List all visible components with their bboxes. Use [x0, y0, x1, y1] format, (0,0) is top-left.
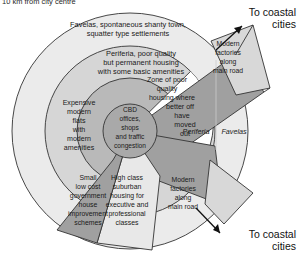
svg-text:main road: main road [168, 203, 198, 210]
svg-text:executive and: executive and [106, 201, 149, 208]
favelas-ring-label: Favelas [221, 127, 247, 136]
svg-text:but permanent housing: but permanent housing [103, 58, 179, 67]
svg-text:housing where: housing where [149, 94, 195, 102]
svg-text:modern: modern [67, 135, 91, 143]
svg-text:squatter type settlements: squatter type settlements [87, 29, 170, 38]
svg-text:offices,: offices, [120, 115, 141, 122]
svg-text:and traffic: and traffic [116, 133, 146, 140]
svg-text:classes: classes [116, 219, 140, 226]
top-note-label: 10 km from city centre [2, 0, 76, 6]
periferia-ring-label: Periferia [183, 127, 210, 136]
coastal-bottom-line2: cities [249, 240, 296, 252]
diagram-root: 10 km from city centre [0, 0, 298, 266]
svg-text:Small: Small [79, 174, 97, 181]
svg-text:factories: factories [215, 49, 241, 56]
svg-text:Expensive: Expensive [63, 99, 96, 107]
svg-text:shops: shops [121, 124, 139, 132]
svg-text:modern: modern [67, 108, 91, 116]
svg-text:professional: professional [108, 210, 146, 218]
land-use-model-svg: Favelas, spontaneous shanty town, squatt… [0, 0, 298, 266]
svg-text:with some basic amenities: with some basic amenities [97, 67, 185, 76]
svg-text:Modern: Modern [216, 40, 239, 47]
svg-text:housing for: housing for [110, 192, 145, 200]
svg-text:house: house [79, 201, 98, 208]
svg-text:main road: main road [213, 67, 243, 74]
svg-text:CBD: CBD [123, 106, 137, 113]
svg-text:Periferia, poor quality: Periferia, poor quality [106, 49, 176, 58]
svg-text:High class: High class [111, 174, 143, 182]
coastal-bottom-line1: To coastal [249, 228, 296, 240]
periferia-zone-text: Periferia, poor quality but permanent ho… [97, 49, 185, 76]
coastal-top-line1: To coastal [249, 6, 296, 18]
svg-text:government: government [70, 192, 106, 200]
coastal-top-line2: cities [249, 18, 296, 30]
svg-text:quality: quality [157, 85, 178, 93]
svg-text:flats: flats [72, 117, 85, 125]
svg-text:along: along [220, 58, 237, 66]
svg-text:Modern: Modern [171, 176, 194, 183]
svg-text:have: have [174, 112, 189, 120]
svg-text:factories: factories [170, 185, 196, 192]
svg-text:schemes: schemes [74, 219, 102, 226]
favelas-zone-text: Favelas, spontaneous shanty town, squatt… [70, 20, 186, 38]
svg-text:Favelas, spontaneous shanty to: Favelas, spontaneous shanty town, [70, 20, 186, 29]
svg-text:congestion: congestion [114, 142, 146, 150]
svg-text:with: with [72, 126, 86, 134]
svg-text:better off: better off [166, 103, 194, 111]
svg-text:suburban: suburban [113, 183, 142, 190]
svg-text:Zone of poor: Zone of poor [147, 76, 188, 84]
svg-text:amenities: amenities [64, 144, 95, 152]
svg-text:improvement: improvement [68, 210, 108, 218]
svg-text:low cost: low cost [76, 183, 101, 190]
svg-text:along: along [175, 194, 192, 202]
to-coastal-cities-top: To coastal cities [249, 6, 296, 30]
to-coastal-cities-bottom: To coastal cities [249, 228, 296, 252]
